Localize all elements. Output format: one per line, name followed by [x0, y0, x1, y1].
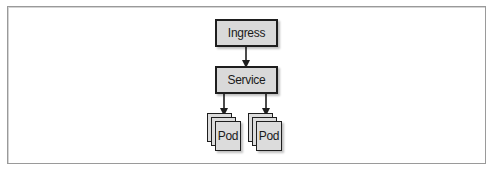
ingress-label: Ingress	[228, 26, 265, 40]
pod-card-front: Pod	[256, 121, 282, 151]
service-node: Service	[215, 66, 278, 94]
pod-label: Pod	[218, 129, 238, 143]
service-label: Service	[228, 73, 266, 87]
pod-label: Pod	[259, 129, 279, 143]
ingress-node: Ingress	[215, 19, 278, 47]
pod-card-front: Pod	[215, 121, 241, 151]
